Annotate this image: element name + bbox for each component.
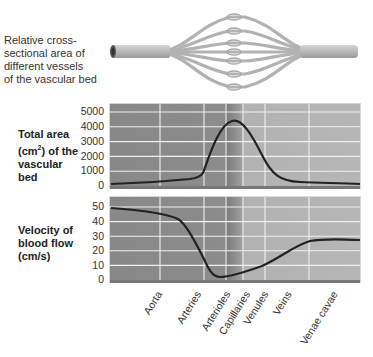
area-chart — [109, 103, 361, 189]
y-tick: 3000 — [64, 136, 104, 147]
y-tick: 40 — [64, 216, 104, 227]
y-tick: 2000 — [64, 151, 104, 162]
y-tick: 5000 — [64, 106, 104, 117]
y-tick: 4000 — [64, 121, 104, 132]
y-tick: 20 — [64, 245, 104, 256]
y-tick: 50 — [64, 201, 104, 212]
y-tick: 30 — [64, 231, 104, 242]
y-tick: 10 — [64, 260, 104, 271]
y-tick: 1000 — [64, 165, 104, 176]
y-tick: 0 — [64, 274, 104, 285]
y-tick: 0 — [64, 180, 104, 191]
velocity-y-label: Velocity of blood flow (cm/s) — [18, 224, 73, 263]
velocity-chart — [109, 196, 361, 283]
